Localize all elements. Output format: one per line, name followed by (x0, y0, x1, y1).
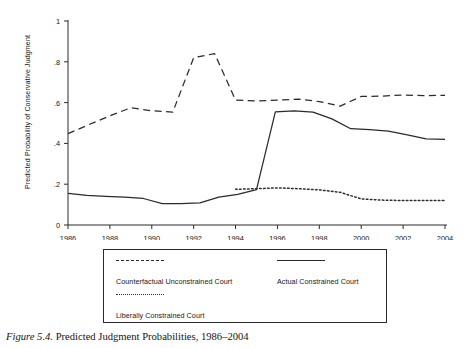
figure-caption-text: Predicted Judgment Probabilities, 1986–2… (53, 331, 249, 342)
y-tick-label: .2 (54, 180, 60, 189)
x-tick-label: 1996 (269, 234, 285, 240)
line-chart: 0.2.4.6.81198619881990199219941996199820… (0, 0, 469, 240)
chart-legend: Counterfactual Unconstrained Court Actua… (103, 249, 387, 323)
x-tick-label: 1994 (227, 234, 243, 240)
y-tick-label: .8 (54, 58, 60, 67)
x-tick-label: 2004 (437, 234, 453, 240)
x-tick-label: 1992 (185, 234, 201, 240)
legend-label-counterfactual-unconstrained-court: Counterfactual Unconstrained Court (116, 277, 232, 286)
legend-key-solid-icon (277, 260, 325, 269)
y-tick-label: 1 (56, 17, 60, 26)
legend-label-liberally-constrained-court: Liberally Constrained Court (116, 311, 204, 320)
figure-caption: Figure 5.4. Predicted Judgment Probabili… (6, 331, 249, 342)
figure-number: Figure 5.4. (6, 331, 53, 342)
x-tick-label: 1998 (311, 234, 327, 240)
x-tick-label: 1988 (102, 234, 118, 240)
chart-plot-area: Predicted Probability of Conservative Ju… (0, 0, 469, 240)
series-line-solid (68, 111, 445, 204)
x-tick-label: 1986 (60, 234, 76, 240)
x-tick-label: 2002 (395, 234, 411, 240)
x-tick-label: 1990 (144, 234, 160, 240)
legend-key-dashed-icon (116, 260, 164, 269)
legend-key-dotted-icon (116, 294, 164, 303)
figure-5-4: Predicted Probability of Conservative Ju… (0, 0, 469, 348)
legend-label-actual-constrained-court: Actual Constrained Court (277, 277, 359, 286)
y-tick-label: 0 (56, 221, 60, 230)
y-tick-label: .4 (54, 139, 60, 148)
series-line-dotted (236, 188, 445, 201)
y-axis-title: Predicted Probability of Conservative Ju… (24, 12, 32, 212)
y-tick-label: .6 (54, 99, 60, 108)
series-line-dashed (68, 54, 445, 134)
x-tick-label: 2000 (353, 234, 369, 240)
